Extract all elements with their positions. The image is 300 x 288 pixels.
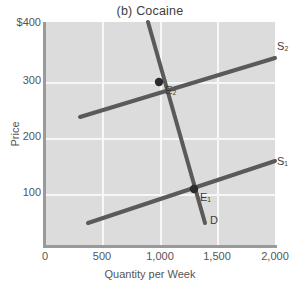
curve-label-s1: S₁ (277, 155, 288, 167)
point-label-e1: E₁ (200, 191, 211, 203)
curves-layer (0, 0, 300, 288)
curve-label-s2: S₂ (277, 40, 289, 52)
equilibrium-point-e2 (155, 78, 163, 86)
point-label-e2: E₂ (165, 84, 177, 96)
cocaine-supply-demand-chart: (b) Cocaine $400 300 200 100 0 500 1,000… (0, 0, 300, 288)
supply-curve-s1 (88, 161, 275, 223)
supply-curve-s2 (80, 58, 275, 117)
curve-label-d-text: D (210, 214, 218, 226)
equilibrium-point-e1 (190, 185, 198, 193)
curve-label-s1-text: S₁ (277, 155, 288, 167)
curve-label-s2-text: S₂ (277, 40, 289, 52)
curve-label-d: D (210, 214, 218, 226)
point-label-e1-text: E₁ (200, 191, 211, 203)
point-label-e2-text: E₂ (165, 84, 177, 96)
